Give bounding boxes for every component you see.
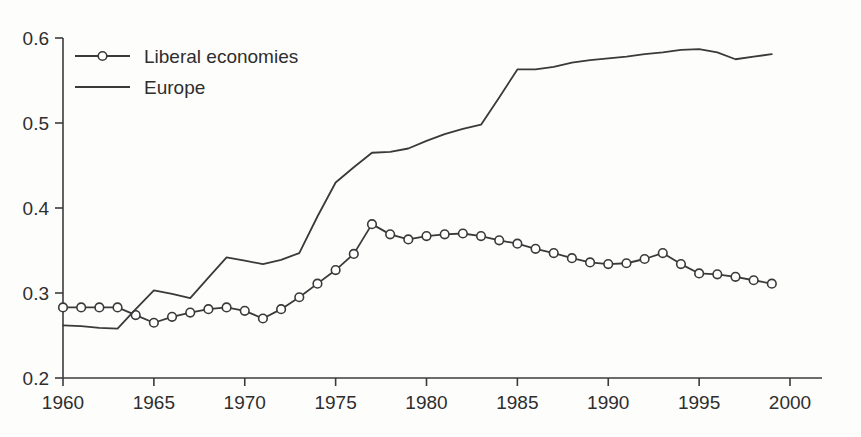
x-tick-label: 1965 xyxy=(133,392,175,413)
x-tick-label: 1975 xyxy=(314,392,356,413)
x-tick-label: 1995 xyxy=(678,392,720,413)
legend-label-1: Europe xyxy=(144,77,205,98)
series-line-0 xyxy=(63,224,772,323)
data-point-marker xyxy=(622,259,631,268)
data-point-marker xyxy=(731,273,740,282)
x-tick-label: 1960 xyxy=(42,392,84,413)
data-point-marker xyxy=(95,303,104,312)
data-point-marker xyxy=(586,258,595,267)
data-point-marker xyxy=(386,230,395,239)
line-chart: 0.20.30.40.50.6 196019651970197519801985… xyxy=(0,0,861,437)
data-point-marker xyxy=(222,303,231,312)
data-point-marker xyxy=(259,314,268,323)
data-point-marker xyxy=(186,308,195,317)
data-point-marker xyxy=(477,232,486,241)
y-tick-label: 0.6 xyxy=(23,28,49,49)
data-point-marker xyxy=(277,305,286,314)
x-tick-label: 2000 xyxy=(769,392,811,413)
data-point-marker xyxy=(368,220,377,229)
data-point-marker xyxy=(713,270,722,279)
x-tick-label: 1985 xyxy=(496,392,538,413)
data-point-marker xyxy=(495,236,504,245)
data-point-marker xyxy=(113,303,122,312)
data-point-marker xyxy=(549,249,558,258)
data-point-marker xyxy=(459,229,468,238)
y-tick-label: 0.4 xyxy=(23,198,50,219)
y-tick-label: 0.2 xyxy=(23,368,49,389)
data-point-marker xyxy=(658,249,667,258)
data-point-marker xyxy=(768,279,777,288)
data-point-marker xyxy=(331,266,340,275)
data-point-marker xyxy=(604,260,613,269)
data-point-marker xyxy=(168,313,177,322)
data-point-marker xyxy=(440,230,449,239)
data-point-marker xyxy=(150,318,159,327)
data-point-marker xyxy=(640,255,649,264)
data-point-marker xyxy=(295,293,304,302)
data-point-marker xyxy=(77,303,86,312)
data-point-marker xyxy=(204,305,213,314)
data-point-marker xyxy=(240,307,249,316)
chart-legend: Liberal economiesEurope xyxy=(75,46,298,98)
data-point-marker xyxy=(313,279,322,288)
data-point-marker xyxy=(749,276,758,285)
data-point-marker xyxy=(677,260,686,269)
x-tick-label: 1990 xyxy=(587,392,629,413)
data-point-marker xyxy=(695,269,704,278)
data-point-marker xyxy=(404,235,413,244)
data-point-marker xyxy=(59,303,68,312)
data-point-marker xyxy=(568,254,577,263)
chart-figure: 0.20.30.40.50.6 196019651970197519801985… xyxy=(0,0,861,437)
x-axis-ticks: 196019651970197519801985199019952000 xyxy=(42,378,811,413)
y-axis-ticks: 0.20.30.40.50.6 xyxy=(23,28,63,389)
legend-label-0: Liberal economies xyxy=(144,46,298,67)
y-tick-label: 0.5 xyxy=(23,113,49,134)
data-point-marker xyxy=(513,239,522,248)
x-tick-label: 1980 xyxy=(405,392,447,413)
legend-marker-0 xyxy=(98,52,107,61)
data-point-marker xyxy=(422,232,431,241)
data-point-marker xyxy=(531,245,540,254)
data-point-marker xyxy=(350,250,359,259)
x-tick-label: 1970 xyxy=(224,392,266,413)
y-tick-label: 0.3 xyxy=(23,283,49,304)
